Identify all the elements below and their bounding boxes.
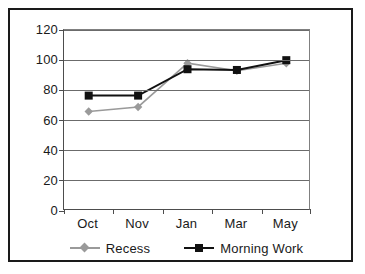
x-axis-tick [310,209,311,214]
x-axis-tick [212,209,213,214]
y-axis-tick-label: 80 [14,82,58,97]
y-axis-tick-label: 40 [14,142,58,157]
legend-label-recess: Recess [106,241,151,256]
legend-label-morning-work: Morning Work [220,241,303,256]
square-marker-icon [195,244,203,252]
y-axis-tick [59,90,64,91]
legend-item-morning-work[interactable]: Morning Work [184,241,303,256]
y-axis-tick [59,180,64,181]
y-axis-tick [59,120,64,121]
y-axis-tick-label: 120 [14,22,58,37]
x-axis-tick-label: Nov [125,216,149,231]
square-marker-icon [85,92,93,100]
x-axis-tick [262,209,263,214]
x-axis-tick [113,209,114,214]
plot-area [63,29,310,210]
y-axis-tick-labels: 020406080100120 [14,29,58,210]
gridline [64,120,309,121]
legend-swatch-morning-work [184,242,214,254]
gridline [64,90,309,91]
square-marker-icon [233,66,241,74]
y-axis-tick-label: 20 [14,172,58,187]
y-axis-tick-label: 0 [14,203,58,218]
gridline [64,60,309,61]
x-axis-tick-label: May [273,216,298,231]
y-axis-tick [59,60,64,61]
chart-figure: Percentage 020406080100120 Recess Mornin… [0,0,365,274]
gridline [64,150,309,151]
x-axis-tick [163,209,164,214]
square-marker-icon [134,92,142,100]
diamond-marker-icon [79,243,89,253]
x-axis-tick-label: Oct [77,216,98,231]
legend-item-recess[interactable]: Recess [70,241,151,256]
gridline [64,180,309,181]
legend-swatch-recess [70,242,100,254]
x-axis-tick [64,209,65,214]
gridline [64,30,309,31]
diamond-marker-icon [85,107,93,115]
y-axis-tick [59,150,64,151]
y-axis-tick [59,30,64,31]
x-axis-tick-label: Mar [224,216,247,231]
x-axis-tick-label: Jan [176,216,198,231]
y-axis-tick-label: 100 [14,52,58,67]
y-axis-tick-label: 60 [14,112,58,127]
square-marker-icon [184,65,192,73]
chart-legend: Recess Morning Work [63,238,310,258]
